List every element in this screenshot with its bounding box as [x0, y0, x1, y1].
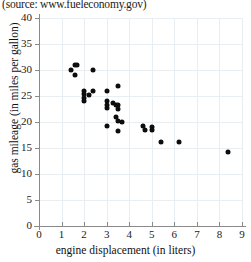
x-axis-title: engine displacement (in liters) [0, 244, 251, 256]
x-tick-mark [84, 222, 85, 227]
grid-line-horizontal [39, 44, 242, 45]
grid-line-horizontal [39, 122, 242, 123]
x-tick-label: 3 [100, 228, 114, 240]
x-tick-label: 1 [55, 228, 69, 240]
x-tick-label: 4 [122, 228, 136, 240]
x-tick-label: 7 [190, 228, 204, 240]
x-axis-line [34, 226, 246, 227]
x-tick-mark [129, 222, 130, 227]
data-point [149, 128, 154, 133]
source-note: (source: www.fueleconomy.gov) [2, 0, 146, 10]
data-point [91, 68, 96, 73]
y-tick-mark [35, 148, 40, 149]
grid-line-horizontal [39, 174, 242, 175]
x-tick-mark [174, 222, 175, 227]
grid-line-horizontal [39, 148, 242, 149]
data-point [120, 120, 125, 125]
y-tick-mark [35, 96, 40, 97]
x-tick-mark [197, 222, 198, 227]
plot-area [39, 18, 242, 226]
data-point [75, 62, 80, 67]
y-tick-mark [35, 174, 40, 175]
y-tick-label: 0 [10, 219, 32, 231]
scatter-plot-figure: (source: www.fueleconomy.gov) 0123456789… [0, 0, 251, 262]
x-tick-mark [107, 222, 108, 227]
data-point [86, 92, 91, 97]
data-point [104, 124, 109, 129]
data-point [104, 88, 109, 93]
x-tick-label: 5 [145, 228, 159, 240]
x-tick-label: 9 [235, 228, 249, 240]
grid-line-vertical [242, 18, 243, 226]
data-point [158, 140, 163, 145]
x-tick-mark [62, 222, 63, 227]
y-tick-mark [35, 70, 40, 71]
grid-line-horizontal [39, 96, 242, 97]
y-axis-title: gas mileage (in miles per gallon) [8, 18, 20, 178]
data-point [115, 107, 120, 112]
data-point [115, 129, 120, 134]
y-tick-mark [35, 122, 40, 123]
data-point [115, 83, 120, 88]
x-tick-mark [242, 222, 243, 227]
y-tick-mark [35, 200, 40, 201]
y-tick-mark [35, 18, 40, 19]
x-tick-label: 8 [212, 228, 226, 240]
data-point [73, 73, 78, 78]
x-tick-label: 2 [77, 228, 91, 240]
x-tick-mark [219, 222, 220, 227]
grid-line-horizontal [39, 200, 242, 201]
y-tick-mark [35, 44, 40, 45]
data-point [176, 140, 181, 145]
x-tick-label: 0 [32, 228, 46, 240]
y-tick-mark [35, 226, 40, 227]
x-tick-label: 6 [167, 228, 181, 240]
y-tick-label: 5 [10, 193, 32, 205]
data-point [68, 68, 73, 73]
data-point [91, 88, 96, 93]
x-tick-mark [152, 222, 153, 227]
data-point [143, 128, 148, 133]
data-point [226, 150, 231, 155]
grid-line-horizontal [39, 18, 242, 19]
data-point [82, 99, 87, 104]
data-point [104, 105, 109, 110]
